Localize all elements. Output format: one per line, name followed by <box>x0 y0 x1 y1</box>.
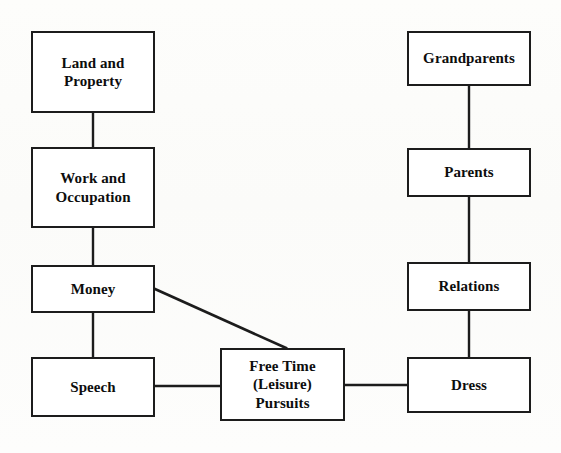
node-work-and-occupation[interactable]: Work and Occupation <box>31 147 155 228</box>
node-label-speech: Speech <box>66 378 120 396</box>
node-free-time-leisure-pursuits[interactable]: Free Time (Leisure) Pursuits <box>220 348 345 421</box>
node-speech[interactable]: Speech <box>31 357 155 417</box>
node-label-land-and-property: Land and Property <box>58 54 129 91</box>
node-label-relations: Relations <box>435 277 504 295</box>
diagram-canvas: Land and PropertyWork and OccupationMone… <box>0 0 561 453</box>
connector-money-to-free-time <box>155 289 286 348</box>
node-relations[interactable]: Relations <box>407 262 531 311</box>
node-label-parents: Parents <box>440 163 498 181</box>
node-dress[interactable]: Dress <box>407 357 531 413</box>
node-grandparents[interactable]: Grandparents <box>407 31 531 86</box>
node-label-work-and-occupation: Work and Occupation <box>51 169 134 206</box>
node-label-dress: Dress <box>447 376 491 394</box>
node-money[interactable]: Money <box>31 265 155 313</box>
node-label-free-time-leisure-pursuits: Free Time (Leisure) Pursuits <box>245 357 319 412</box>
node-parents[interactable]: Parents <box>407 148 531 197</box>
node-label-grandparents: Grandparents <box>419 49 519 67</box>
node-label-money: Money <box>67 280 120 298</box>
node-land-and-property[interactable]: Land and Property <box>31 31 155 113</box>
